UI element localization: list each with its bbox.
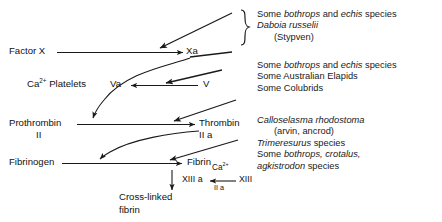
ca-platelets-rest-text: Platelets <box>46 78 85 89</box>
node-prothrombin-factor-number: II <box>36 130 41 140</box>
node-prothrombin: Prothrombin <box>9 118 61 128</box>
species-text: species <box>362 9 396 19</box>
node-thrombin: Thrombin <box>199 118 240 128</box>
species-text: Some Australian Elapids <box>257 71 358 81</box>
species-text: species <box>311 138 345 148</box>
node-va: Va <box>110 79 121 89</box>
venom-species-line: Calloselasma rhodostoma <box>257 115 364 126</box>
venom-species-line: Some bothrops and echis species <box>257 9 397 20</box>
species-text: Some <box>257 149 284 159</box>
species-text: and <box>320 9 341 19</box>
curly-brace-group1 <box>241 10 249 45</box>
node-thrombin-factor-number: II a <box>199 130 212 140</box>
cofactor-calcium-charge-superscript: 2+ <box>222 161 228 167</box>
node-fibrinogen: Fibrinogen <box>9 157 54 167</box>
species-text: Some <box>257 60 284 70</box>
node-xa: Xa <box>186 46 198 56</box>
venom-species-line: (Stypven) <box>257 32 397 43</box>
species-name-italic: Daboia russelii <box>257 20 318 30</box>
species-name-italic: agkistrodon <box>257 161 305 171</box>
venom-species-line: Daboia russelii <box>257 20 397 31</box>
arrow-venom-to-va-activation <box>166 70 222 83</box>
curve-thrombin-to-fibrinogen <box>100 131 199 159</box>
curve-xa-to-prothrombin <box>93 58 190 118</box>
node-factor-x: Factor X <box>9 46 45 56</box>
node-crosslinked-fibrin-line1: Cross-linked <box>119 192 172 202</box>
species-text: Some Colubrids <box>257 83 323 93</box>
ca-platelets-ca-text: Ca <box>27 78 39 89</box>
venom-species-line: Some Australian Elapids <box>257 71 397 82</box>
venom-species-line: Some bothrops and echis species <box>257 60 397 71</box>
coagulation-cascade-diagram: Factor X Xa Ca2+ Platelets Va V Prothrom… <box>0 0 442 222</box>
venom-group-thrombin-like: Calloselasma rhodostoma(arvin, ancrod)Tr… <box>257 115 364 172</box>
node-xiii-a: XIII a <box>182 175 203 184</box>
venom-species-line: Some bothrops, crotalus, <box>257 149 364 160</box>
species-name-italic: bothrops <box>284 60 320 70</box>
venom-species-line: Trimeresurus species <box>257 138 364 149</box>
species-text: (arvin, ancrod) <box>274 126 334 136</box>
venom-species-line: (arvin, ancrod) <box>257 126 364 137</box>
species-name-italic: bothrops <box>284 9 320 19</box>
species-text: and <box>320 60 341 70</box>
venom-species-line: agkistrodon species <box>257 161 364 172</box>
node-v: V <box>203 79 209 89</box>
node-ca-platelets: Ca2+ Platelets <box>27 79 86 89</box>
node-xiii: XIII <box>239 175 252 184</box>
species-name-italic: echis <box>341 60 363 70</box>
species-text: species <box>305 161 339 171</box>
species-text: Some <box>257 9 284 19</box>
species-text: (Stypven) <box>274 32 314 42</box>
venom-species-line: Some Colubrids <box>257 83 397 94</box>
cofactor-thrombin-label: II a <box>214 184 224 192</box>
node-fibrin: Fibrin <box>187 157 211 167</box>
cofactor-calcium-text: Ca <box>212 163 222 172</box>
species-name-italic: echis <box>341 9 363 19</box>
venom-group-x-activators: Some bothrops and echis speciesDaboia ru… <box>257 9 397 43</box>
arrow-venomgroup1-upper-to-factorx <box>160 13 232 48</box>
venom-group-prothrombin-activators: Some bothrops and echis speciesSome Aust… <box>257 60 397 94</box>
species-name-italic: Calloselasma rhodostoma <box>257 115 364 125</box>
cofactor-calcium-label: Ca2+ <box>212 164 229 173</box>
species-name-italic: Trimeresurus <box>257 138 311 148</box>
species-text: species <box>362 60 396 70</box>
node-crosslinked-fibrin-line2: fibrin <box>119 205 140 215</box>
species-name-italic: bothrops, crotalus, <box>284 149 360 159</box>
